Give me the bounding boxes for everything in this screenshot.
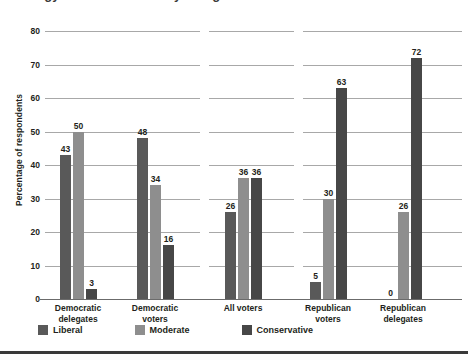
bar-value-label: 48 <box>138 127 147 137</box>
bar-value-label: 26 <box>399 201 408 211</box>
group-label: All voters <box>224 303 263 314</box>
legend-swatch-icon <box>38 325 48 335</box>
bar-value-label: 16 <box>164 234 173 244</box>
bar-item[interactable]: 30 <box>323 199 334 300</box>
group-label: Republicanvoters <box>305 303 351 324</box>
bar-value-label: 0 <box>388 288 393 298</box>
bars: 02672 <box>385 25 422 299</box>
y-axis-tick-label: 20 <box>31 227 45 237</box>
group-label-line: voters <box>132 314 178 325</box>
y-axis-tick-label: 80 <box>31 26 45 36</box>
bar-value-label: 34 <box>151 174 160 184</box>
y-axis-tick-label: 50 <box>31 127 45 137</box>
bar[interactable] <box>150 185 161 299</box>
bar-group: 263636All voters <box>225 25 262 299</box>
bar-item[interactable]: 3 <box>86 289 97 299</box>
bar[interactable] <box>225 212 236 299</box>
chart-legend: LiberalModerateConservative <box>38 325 365 335</box>
bar-item[interactable]: 16 <box>163 245 174 299</box>
legend-swatch-icon <box>242 325 252 335</box>
bar[interactable] <box>163 245 174 299</box>
y-axis-tick-label: 30 <box>31 194 45 204</box>
legend-label: Conservative <box>257 325 314 335</box>
bars: 263636 <box>225 25 262 299</box>
group-label-line: Republican <box>380 303 426 314</box>
bar[interactable] <box>336 88 347 299</box>
legend-label: Moderate <box>150 325 190 335</box>
bar-item[interactable]: 43 <box>60 155 71 299</box>
group-label-line: Democratic <box>132 303 178 314</box>
bar-group: 02672Republicandelegates <box>385 25 422 299</box>
group-label-line: Republican <box>305 303 351 314</box>
group-label: Democraticvoters <box>132 303 178 324</box>
bar-item[interactable]: 48 <box>137 138 148 299</box>
bar[interactable] <box>310 282 321 299</box>
group-label: Democraticdelegates <box>55 303 101 324</box>
bar-value-label: 72 <box>412 47 421 57</box>
group-label-line: voters <box>305 314 351 325</box>
y-axis-tick-label: 10 <box>31 261 45 271</box>
bars: 53063 <box>310 25 347 299</box>
bar-value-label: 63 <box>337 77 346 87</box>
bar-value-label: 36 <box>239 167 248 177</box>
bar-value-label: 30 <box>324 188 333 198</box>
bar[interactable] <box>137 138 148 299</box>
legend-item[interactable]: Moderate <box>135 325 190 335</box>
bar-value-label: 50 <box>74 121 83 131</box>
legend-item[interactable]: Conservative <box>242 325 314 335</box>
bar-item[interactable]: 26 <box>225 212 236 299</box>
footer-rule <box>0 351 468 354</box>
bar[interactable] <box>238 178 249 299</box>
y-axis-tick-label: 40 <box>31 160 45 170</box>
bar-item[interactable]: 36 <box>251 178 262 299</box>
bar[interactable] <box>60 155 71 299</box>
bar[interactable] <box>251 178 262 299</box>
legend-swatch-icon <box>135 325 145 335</box>
group-label-line: All voters <box>224 303 263 314</box>
bar[interactable] <box>411 58 422 299</box>
legend-item[interactable]: Liberal <box>38 325 83 335</box>
bar-value-label: 43 <box>61 144 70 154</box>
group-label-line: Democratic <box>55 303 101 314</box>
bar-item[interactable]: 5 <box>310 282 321 299</box>
bar-value-label: 3 <box>89 278 94 288</box>
bar-item[interactable]: 50 <box>73 132 84 300</box>
group-label-line: delegates <box>380 314 426 325</box>
group-label: Republicandelegates <box>380 303 426 324</box>
bar[interactable] <box>398 212 409 299</box>
bar-value-label: 26 <box>226 201 235 211</box>
plot-area: 01020304050607080 43503Democraticdelegat… <box>45 25 462 299</box>
bar-item[interactable]: 36 <box>238 178 249 299</box>
legend-label: Liberal <box>53 325 83 335</box>
bars: 483416 <box>137 25 174 299</box>
bar-item[interactable]: 72 <box>411 58 422 299</box>
bar-item[interactable]: 63 <box>336 88 347 299</box>
bar-chart: Percentage of respondents 01020304050607… <box>0 0 468 352</box>
bar-value-label: 5 <box>313 271 318 281</box>
bar[interactable] <box>323 199 334 300</box>
bar[interactable] <box>86 289 97 299</box>
y-axis-tick-label: 70 <box>31 60 45 70</box>
bars: 43503 <box>60 25 97 299</box>
x-axis-baseline <box>40 299 462 300</box>
bar-group: 53063Republicanvoters <box>310 25 347 299</box>
bar[interactable] <box>73 132 84 300</box>
bar-group: 483416Democraticvoters <box>137 25 174 299</box>
bar-item[interactable]: 26 <box>398 212 409 299</box>
bar-item[interactable]: 34 <box>150 185 161 299</box>
y-axis-tick-label: 60 <box>31 93 45 103</box>
y-axis-label: Percentage of respondents <box>14 35 24 265</box>
bar-value-label: 36 <box>252 167 261 177</box>
bar-group: 43503Democraticdelegates <box>60 25 97 299</box>
group-label-line: delegates <box>55 314 101 325</box>
